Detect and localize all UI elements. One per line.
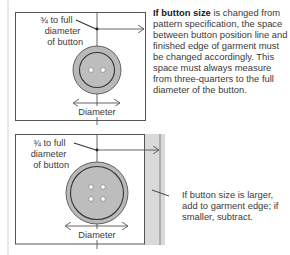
button-hole bbox=[101, 185, 106, 190]
diameter-label-bottom: Diameter bbox=[78, 230, 115, 240]
button-hole bbox=[101, 68, 106, 73]
position-dot-top bbox=[96, 28, 99, 31]
button-4-hole bbox=[66, 162, 128, 224]
button-hole bbox=[89, 68, 94, 73]
garment-edge-strip bbox=[144, 134, 165, 245]
button-hole bbox=[101, 197, 106, 202]
top-panel: ¾ to full diameter of button Diameter bbox=[16, 12, 146, 125]
button-2-hole bbox=[73, 46, 121, 94]
bottom-panel: ¾ to full diameter of button Diameter bbox=[16, 134, 170, 249]
button-hole bbox=[89, 197, 94, 202]
spacing-label-bottom: ¾ to full diameter of button bbox=[31, 138, 69, 170]
button-inner-ring bbox=[80, 53, 115, 88]
position-dot-bottom bbox=[96, 149, 99, 152]
note-top-bold: If button size bbox=[153, 7, 211, 18]
diameter-label-top: Diameter bbox=[78, 107, 115, 117]
note-bottom: If button size is larger, add to garment… bbox=[182, 189, 290, 222]
note-top: If button size is changed from pattern s… bbox=[153, 7, 289, 95]
button-inner-ring bbox=[71, 167, 124, 220]
note-top-text: is changed from pattern specification, t… bbox=[153, 7, 287, 95]
button-hole bbox=[89, 185, 94, 190]
